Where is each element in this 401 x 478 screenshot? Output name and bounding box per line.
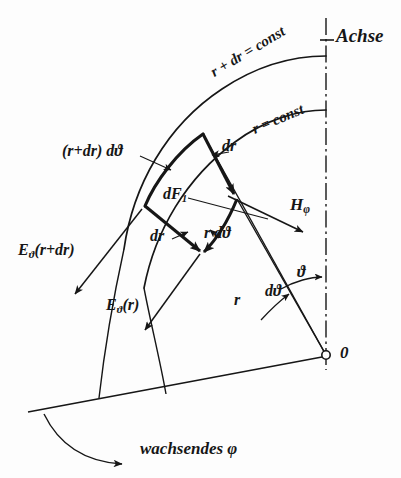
- area-element-label: dF1: [163, 186, 187, 204]
- field-inner-label: Eϑ(r): [106, 297, 139, 315]
- base-line: [28, 357, 322, 412]
- diagram-canvas: [0, 0, 401, 478]
- polar-element-diagram: Achse r + dr = const r = const (r+dr) dϑ…: [0, 0, 401, 478]
- magnetic-field-label: Hφ: [290, 196, 310, 216]
- magnetic-field-symbol: H: [290, 195, 303, 214]
- angle-increment-label: dϑ: [265, 283, 281, 299]
- origin-label: 0: [340, 344, 349, 361]
- field-outer-symbol: E: [18, 241, 29, 258]
- axis-line: [320, 18, 334, 370]
- angle-label: ϑ: [297, 264, 305, 280]
- outer-tangential-edge-label: (r+dr) dϑ: [62, 143, 123, 159]
- field-arrow-E-theta-outer: [75, 209, 142, 294]
- radial-curve-right: [144, 288, 166, 394]
- growing-phi-arrow: [44, 414, 122, 464]
- field-inner-arg: (r): [122, 296, 139, 313]
- radius-label: r: [234, 292, 240, 308]
- axis-label: Achse: [336, 26, 384, 45]
- radial-edge-top-label: dr: [222, 138, 236, 154]
- field-inner-symbol: E: [106, 296, 117, 313]
- inner-tangential-edge-label: r dϑ: [204, 225, 231, 241]
- area-element-symbol: dF: [163, 185, 182, 202]
- radial-edge-bottom-label: dr: [150, 228, 164, 244]
- field-arrow-E-theta-inner: [145, 254, 200, 330]
- magnetic-field-subscript: φ: [303, 203, 310, 216]
- field-outer-arg: (r+dr): [34, 241, 74, 258]
- origin-point: [322, 351, 330, 359]
- area-element-subscript: 1: [182, 192, 187, 204]
- growing-phi-label: wachsendes φ: [140, 440, 237, 457]
- radial-curve-left: [99, 249, 124, 398]
- field-outer-label: Eϑ(r+dr): [18, 242, 75, 260]
